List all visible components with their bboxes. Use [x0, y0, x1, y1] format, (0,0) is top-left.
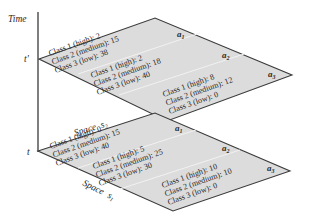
- plane-t-prime: Class 1 (high): 2 Class 2 (medium): 15 C…: [39, 18, 292, 121]
- space-time-diagram: Time t' t Class 1 (high): 2 Class 2 (med…: [0, 0, 309, 222]
- t-label: t: [27, 147, 30, 157]
- time-axis-label: Time: [8, 14, 26, 24]
- plane-t-prime-surface: [39, 18, 292, 121]
- t-prime-label: t': [24, 54, 30, 64]
